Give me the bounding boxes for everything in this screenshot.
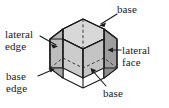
leader-base-top [101, 14, 117, 24]
label-lateral-edge-line1: lateral [5, 28, 33, 40]
label-lateral-edge-line2: edge [5, 40, 33, 52]
hexagonal-prism-figure: base lateral edge lateral face base edge… [0, 0, 169, 108]
label-base-edge-line1: base [6, 70, 27, 82]
label-base-edge: base edge [6, 70, 27, 94]
label-base-bottom: base [103, 88, 123, 100]
label-lateral-face-line1: lateral [122, 44, 150, 56]
right-bottom-wedge-face [104, 68, 117, 78]
label-lateral-face-line2: face [122, 56, 150, 68]
label-base-edge-line2: edge [6, 82, 27, 94]
label-lateral-edge: lateral edge [5, 28, 33, 52]
prism-geometry [50, 19, 117, 88]
label-lateral-face: lateral face [122, 44, 150, 68]
label-base-top: base [117, 4, 137, 16]
leader-base-edge [38, 70, 52, 76]
